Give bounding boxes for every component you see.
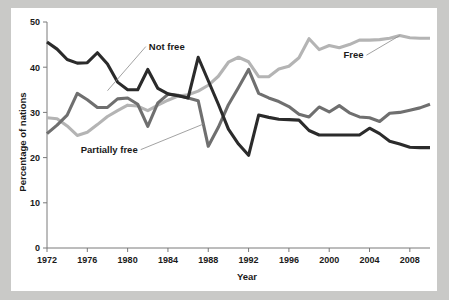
y-tick-label: 20 <box>30 153 40 163</box>
y-tick-label: 30 <box>30 108 40 118</box>
x-tick-label: 1988 <box>198 255 218 265</box>
annotation-label-free: Free <box>343 49 363 60</box>
y-tick-label: 0 <box>35 243 40 253</box>
x-tick-label: 2008 <box>400 255 420 265</box>
x-tick-label: 1992 <box>239 255 259 265</box>
x-tick-label: 2004 <box>360 255 380 265</box>
x-tick-label: 1984 <box>158 255 178 265</box>
y-axis-title: Percentage of nations <box>17 92 28 191</box>
x-tick-label: 1972 <box>37 255 57 265</box>
axes: 01020304050 1972197619801984198819921996… <box>30 17 430 265</box>
line-chart: 01020304050 1972197619801984198819921996… <box>11 8 437 291</box>
annotation-label-not-free: Not free <box>149 41 185 52</box>
x-axis-ticks: 1972197619801984198819921996200020042008 <box>37 248 420 265</box>
x-tick-label: 1996 <box>279 255 299 265</box>
y-tick-label: 50 <box>30 17 40 27</box>
x-axis-title: Year <box>237 271 257 282</box>
chart-card: 01020304050 1972197619801984198819921996… <box>11 8 437 291</box>
series-line-partially-free <box>47 69 430 146</box>
x-tick-label: 2000 <box>319 255 339 265</box>
y-axis-ticks: 01020304050 <box>30 17 47 253</box>
series-annotations: Not freePartially freeFree <box>81 36 400 155</box>
y-tick-label: 10 <box>30 198 40 208</box>
data-series-group <box>47 36 430 156</box>
x-tick-label: 1976 <box>77 255 97 265</box>
figure-root: 01020304050 1972197619801984198819921996… <box>0 0 449 300</box>
annotation-leader-line <box>141 124 205 150</box>
annotation-label-partially-free: Partially free <box>81 144 138 155</box>
x-tick-label: 1980 <box>118 255 138 265</box>
y-tick-label: 40 <box>30 63 40 73</box>
